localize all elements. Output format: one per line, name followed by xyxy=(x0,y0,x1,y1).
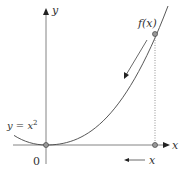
tangent-arrowhead-icon xyxy=(124,72,129,79)
equation-label: y = x2 xyxy=(6,119,38,131)
equation-base: y = x xyxy=(6,120,33,131)
curve-point xyxy=(153,32,158,37)
x-axis-arrowhead-icon xyxy=(163,142,170,148)
bottom-x-label: x xyxy=(149,154,156,167)
function-label: f(x) xyxy=(137,17,157,30)
tangent-arrow-shaft xyxy=(126,40,147,75)
y-axis-label: y xyxy=(51,4,59,17)
equation-exponent: 2 xyxy=(33,119,37,127)
y-axis-arrowhead-icon xyxy=(43,8,49,15)
parabola-diagram: y x 0 x f(x) y = x2 xyxy=(0,0,185,177)
x-direction-arrowhead-icon xyxy=(124,158,129,162)
x-axis-point xyxy=(153,143,158,148)
origin-label: 0 xyxy=(33,155,40,168)
x-axis-label: x xyxy=(172,139,179,152)
origin-point xyxy=(44,143,49,148)
